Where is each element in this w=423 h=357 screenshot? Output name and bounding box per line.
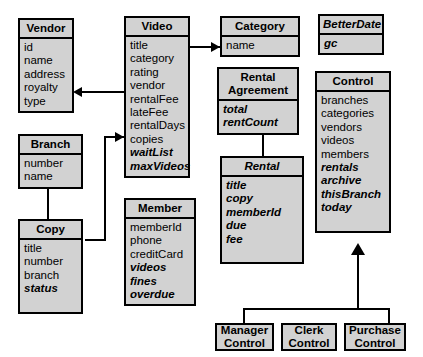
class-box-rental-agreement[interactable]: Rental Agreement total rentCount: [217, 67, 299, 135]
attribute: overdue: [130, 288, 194, 301]
class-box-category[interactable]: Category name: [220, 16, 300, 57]
class-title-rental: Rental: [222, 158, 302, 177]
class-box-clerk-control[interactable]: Clerk Control: [281, 323, 337, 351]
connector-purchase-control-drop: [388, 308, 390, 323]
attribute: branch: [24, 269, 81, 282]
attribute: id: [24, 41, 72, 54]
arrowhead-copy-video: [115, 132, 124, 142]
class-attributes-member: memberId phone creditCard videos fines o…: [126, 219, 194, 304]
class-title-branch: Branch: [20, 136, 81, 155]
class-attributes-video: title category rating vendor rentalFee l…: [126, 37, 188, 176]
attribute: name: [24, 54, 72, 67]
class-title-betterdate: BetterDate: [320, 16, 382, 35]
connector-copy-branch: [47, 186, 49, 219]
attribute: vendor: [130, 79, 188, 92]
class-attributes-copy: title number branch status: [20, 240, 81, 312]
class-box-copy[interactable]: Copy title number branch status: [18, 219, 83, 314]
attribute-spacer: [226, 246, 302, 259]
attribute: rentals: [321, 161, 389, 174]
class-box-manager-control[interactable]: Manager Control: [215, 323, 274, 351]
attribute: lateFee: [130, 106, 188, 119]
class-diagram-canvas: Vendor id name address royalty type Bran…: [0, 0, 423, 357]
attribute: archive: [321, 174, 389, 187]
attribute: branches: [321, 94, 389, 107]
class-box-vendor[interactable]: Vendor id name address royalty type: [18, 18, 74, 113]
attribute: total: [223, 103, 297, 116]
class-box-control[interactable]: Control branches categories vendors vide…: [315, 71, 391, 233]
class-attributes-category: name: [222, 37, 298, 55]
class-box-video[interactable]: Video title category rating vendor renta…: [124, 16, 190, 178]
class-attributes-rental: title copy memberId due fee: [222, 177, 302, 262]
attribute: fines: [130, 275, 194, 288]
attribute: due: [226, 219, 302, 232]
arrowhead-control-generalization: [351, 243, 365, 255]
class-attributes-betterdate: gc: [320, 35, 382, 53]
attribute: videos: [130, 261, 194, 274]
class-title-copy: Copy: [20, 221, 81, 240]
attribute: creditCard: [130, 248, 194, 261]
connector-copy-video-seg1: [85, 239, 106, 241]
attribute: title: [24, 242, 81, 255]
attribute: category: [130, 52, 188, 65]
arrowhead-video-vendor: [73, 87, 82, 97]
connector-manager-control-drop: [243, 308, 245, 323]
class-title-member: Member: [126, 200, 194, 219]
attribute: thisBranch: [321, 188, 389, 201]
connector-copy-video-seg2: [104, 136, 106, 241]
attribute: rentalDays: [130, 119, 188, 132]
connector-control-trunk: [357, 255, 359, 310]
attribute: fee: [226, 233, 302, 246]
attribute: name: [24, 170, 81, 183]
attribute: address: [24, 68, 72, 81]
attribute: royalty: [24, 81, 72, 94]
class-title-rental-agreement: Rental Agreement: [219, 69, 297, 101]
class-box-branch[interactable]: Branch number name: [18, 134, 83, 189]
class-box-rental[interactable]: Rental title copy memberId due fee: [220, 156, 304, 264]
attribute: memberId: [226, 206, 302, 219]
class-title-vendor: Vendor: [20, 20, 72, 39]
attribute: today: [321, 201, 389, 214]
class-box-betterdate[interactable]: BetterDate gc: [318, 14, 384, 55]
class-title-control: Control: [317, 73, 389, 92]
attribute: type: [24, 95, 72, 108]
attribute: number: [24, 255, 81, 268]
attribute: copy: [226, 192, 302, 205]
connector-control-bus: [243, 308, 390, 310]
attribute: vendors: [321, 121, 389, 134]
attribute: rating: [130, 66, 188, 79]
attribute: copies: [130, 133, 188, 146]
attribute: status: [24, 282, 81, 295]
attribute: waitList: [130, 146, 188, 159]
attribute: phone: [130, 234, 194, 247]
class-attributes-control: branches categories vendors videos membe…: [317, 92, 389, 231]
class-box-member[interactable]: Member memberId phone creditCard videos …: [124, 198, 196, 306]
class-title-purchase-control: Purchase Control: [346, 323, 404, 351]
class-box-purchase-control[interactable]: Purchase Control: [344, 323, 406, 351]
attribute: gc: [324, 37, 382, 50]
attribute: rentCount: [223, 116, 297, 129]
attribute: rentalFee: [130, 93, 188, 106]
attribute: members: [321, 148, 389, 161]
class-title-manager-control: Manager Control: [217, 323, 272, 351]
class-attributes-rental-agreement: total rentCount: [219, 101, 297, 133]
attribute: number: [24, 157, 81, 170]
attribute-spacer: [24, 296, 81, 309]
attribute: maxVideos: [130, 160, 188, 173]
arrowhead-video-category: [211, 42, 220, 52]
class-title-category: Category: [222, 18, 298, 37]
attribute: videos: [321, 134, 389, 147]
attribute-spacer: [321, 215, 389, 228]
class-title-video: Video: [126, 18, 188, 37]
attribute: categories: [321, 107, 389, 120]
connector-video-vendor: [82, 91, 124, 93]
attribute: memberId: [130, 221, 194, 234]
class-attributes-vendor: id name address royalty type: [20, 39, 72, 111]
attribute: title: [226, 179, 302, 192]
attribute: name: [226, 39, 298, 52]
attribute: title: [130, 39, 188, 52]
class-attributes-branch: number name: [20, 155, 81, 187]
class-title-clerk-control: Clerk Control: [283, 323, 335, 351]
